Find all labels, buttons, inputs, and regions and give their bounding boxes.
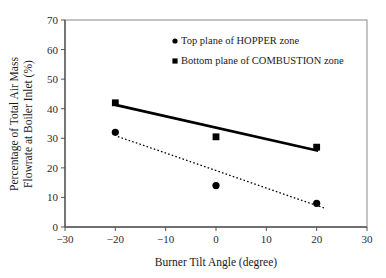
chart-figure: 010203040506070 −30−20−100102030 Top pla…: [0, 0, 386, 278]
y-tick-label-0: 0: [53, 221, 59, 233]
legend-label-0: Top plane of HOPPER zone: [181, 35, 300, 46]
axes-frame: [65, 20, 367, 227]
y-axis-ticks: 010203040506070: [47, 14, 65, 233]
data-point-hopper-2: [313, 200, 320, 207]
y-tick-label-5: 50: [47, 73, 59, 85]
x-tick-label-6: 30: [362, 233, 374, 245]
legend-circle-icon: [172, 38, 177, 43]
y-axis-title-line1: Percentage of Total Air Mass: [8, 57, 21, 191]
y-axis-title-line2: Flowrate at Boiler Inlet (%): [22, 60, 35, 188]
x-axis-ticks: −30−20−100102030: [56, 227, 373, 245]
y-tick-label-6: 60: [47, 44, 59, 56]
chart-legend: Top plane of HOPPER zoneBottom plane of …: [172, 35, 344, 66]
x-tick-label-4: 10: [261, 233, 273, 245]
x-tick-label-0: −30: [56, 233, 74, 245]
data-point-combustion-1: [213, 133, 220, 140]
y-tick-label-2: 20: [47, 162, 59, 174]
x-tick-label-3: 0: [213, 233, 219, 245]
legend-square-icon: [172, 58, 177, 63]
x-tick-label-2: −10: [157, 233, 175, 245]
x-tick-label-1: −20: [107, 233, 125, 245]
legend-label-1: Bottom plane of COMBUSTION zone: [181, 55, 344, 66]
x-tick-label-5: 20: [311, 233, 323, 245]
data-point-combustion-0: [112, 99, 119, 106]
x-axis-title: Burner Tilt Angle (degree): [155, 256, 277, 269]
y-tick-label-7: 70: [47, 14, 59, 26]
y-tick-label-4: 40: [47, 103, 59, 115]
data-point-combustion-2: [313, 144, 320, 151]
data-point-hopper-0: [112, 129, 119, 136]
trendlines: [115, 105, 324, 208]
y-tick-label-3: 30: [47, 132, 59, 144]
y-tick-label-1: 10: [47, 191, 59, 203]
trendline-hopper: [118, 137, 324, 209]
data-markers: [112, 99, 321, 207]
trendline-combustion: [115, 105, 318, 151]
data-point-hopper-1: [212, 182, 219, 189]
scatter-plot: 010203040506070 −30−20−100102030 Top pla…: [0, 0, 386, 278]
